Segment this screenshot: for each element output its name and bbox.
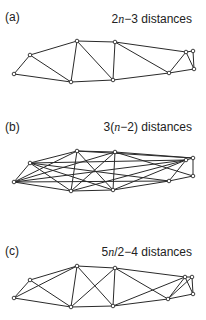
framework-graphs bbox=[0, 0, 206, 320]
edge-A-C bbox=[14, 266, 77, 298]
node-B bbox=[28, 278, 32, 282]
node-J bbox=[192, 67, 196, 71]
node-A bbox=[12, 180, 16, 184]
edge-E-F bbox=[113, 42, 115, 80]
node-I bbox=[191, 49, 195, 53]
node-H bbox=[184, 50, 188, 54]
edge-A-G bbox=[14, 181, 169, 182]
node-I bbox=[190, 275, 194, 279]
edge-B-C bbox=[30, 151, 77, 163]
edge-D-F bbox=[71, 306, 113, 307]
node-J bbox=[191, 174, 195, 178]
edge-C-E bbox=[77, 41, 115, 42]
node-D bbox=[69, 305, 73, 309]
node-C bbox=[75, 149, 79, 153]
node-J bbox=[191, 292, 195, 296]
node-G bbox=[167, 179, 171, 183]
node-F bbox=[111, 304, 115, 308]
edge-C-D bbox=[71, 151, 77, 191]
edge-A-D bbox=[14, 182, 71, 191]
node-C bbox=[75, 264, 79, 268]
node-A bbox=[12, 72, 16, 76]
edge-G-H bbox=[169, 52, 186, 73]
graph-c bbox=[12, 264, 195, 309]
edge-E-H bbox=[115, 268, 185, 277]
edge-F-G bbox=[113, 73, 169, 80]
edge-E-H bbox=[115, 42, 186, 52]
edge-C-F bbox=[77, 41, 113, 80]
edge-A-D bbox=[14, 298, 71, 307]
node-I bbox=[191, 156, 195, 160]
graph-b bbox=[12, 149, 195, 193]
node-H bbox=[183, 275, 187, 279]
node-D bbox=[69, 80, 73, 84]
node-E bbox=[113, 40, 117, 44]
edge-A-B bbox=[14, 55, 30, 74]
edge-E-F bbox=[113, 268, 115, 306]
edge-A-B bbox=[14, 280, 30, 298]
edge-D-F bbox=[71, 80, 113, 82]
node-D bbox=[69, 189, 73, 193]
node-G bbox=[166, 297, 170, 301]
node-H bbox=[184, 158, 188, 162]
edge-E-I bbox=[115, 152, 193, 158]
node-F bbox=[111, 188, 115, 192]
node-E bbox=[113, 266, 117, 270]
node-C bbox=[75, 39, 79, 43]
node-B bbox=[28, 161, 32, 165]
edge-G-J bbox=[169, 69, 194, 73]
edge-E-G bbox=[115, 42, 169, 73]
node-G bbox=[167, 71, 171, 75]
edge-G-I bbox=[168, 277, 192, 299]
node-A bbox=[12, 296, 16, 300]
edge-E-F bbox=[113, 152, 115, 190]
edge-F-G bbox=[113, 181, 169, 190]
graph-a bbox=[12, 39, 196, 84]
node-B bbox=[28, 53, 32, 57]
edge-A-D bbox=[14, 74, 71, 82]
edge-C-D bbox=[71, 41, 77, 82]
edge-D-F bbox=[71, 190, 113, 191]
node-F bbox=[111, 78, 115, 82]
node-E bbox=[113, 150, 117, 154]
edge-B-D bbox=[30, 55, 71, 82]
edge-B-D bbox=[30, 280, 71, 307]
edge-C-E bbox=[77, 266, 115, 268]
edge-B-C bbox=[30, 41, 77, 55]
edge-C-D bbox=[71, 266, 77, 307]
